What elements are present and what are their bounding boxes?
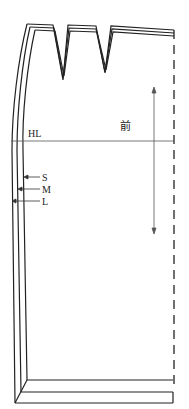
- size-label-s: S: [42, 172, 48, 183]
- grainline-arrow-icon: [152, 87, 156, 234]
- panel-label: 前: [120, 119, 131, 132]
- hem-lines: [15, 380, 173, 403]
- pattern-diagram: HL 前 S M L: [0, 0, 189, 409]
- size-label-l: L: [42, 196, 48, 207]
- hip-line-label: HL: [28, 128, 41, 139]
- waistline-with-darts: [27, 24, 174, 80]
- size-indicator-arrows: [12, 175, 40, 203]
- size-label-m: M: [42, 184, 51, 195]
- side-seam-lines: [12, 24, 35, 403]
